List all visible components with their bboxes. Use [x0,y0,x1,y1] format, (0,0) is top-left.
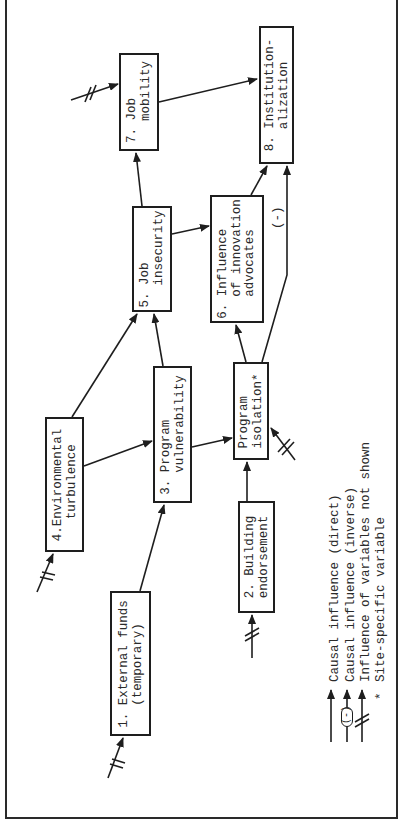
figure-frame [5,0,398,819]
node-5-job-insecurity: 5. Jobinsecurity [132,206,172,312]
legend-asterisk: * [374,692,388,700]
causal-network-diagram: (-) (-) 1. External funds(temporary) 2. … [0,0,405,822]
legend-label-direct: Causal influence (direct) [328,494,342,682]
node-1-external-funds: 1. External funds(temporary) [110,591,151,736]
legend-inverse-marker: (-) [341,707,353,727]
node-6-influence-innovation-advocates: 6. Influenceof innovationadvocates [210,195,264,323]
node-3-program-vulnerability: 3. Programvulnerability [153,366,192,503]
node-4-environmental-turbulence: 4.Environmentalturbulence [45,417,84,552]
node-8-institutionalization: 8. Institution-alization [259,26,294,164]
legend-label-site-specific: Site-specific variable [374,517,388,682]
node-7-job-mobility: 7. Jobmobility [119,53,159,151]
node-2-building-endorsement: 2. Buildingendorsement [238,501,275,613]
node-program-isolation: Programisolation* [233,362,269,460]
legend-label-not-shown: Influence of variables not shown [359,442,373,682]
inverse-edge-label: (-) [271,206,285,229]
legend-label-inverse: Causal influence (inverse) [344,487,358,682]
